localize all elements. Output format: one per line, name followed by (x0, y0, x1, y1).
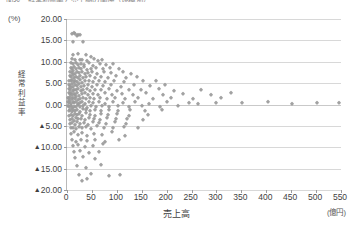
x-axis-tick-label: 50 (86, 192, 95, 202)
data-point (135, 95, 140, 100)
data-point (143, 91, 148, 96)
data-point (101, 70, 106, 75)
x-axis-tick-label: 200 (159, 192, 173, 202)
data-point (73, 156, 78, 161)
data-point (150, 97, 155, 102)
y-axis-tick-label: ▲5.00 (39, 121, 62, 131)
y-axis-tick-label: ▲10.00 (34, 142, 62, 152)
gridline-y (67, 147, 341, 148)
data-point (92, 157, 97, 162)
plot-area (66, 19, 341, 191)
data-point (71, 40, 76, 45)
data-point (78, 148, 83, 153)
x-axis-title: 売上高 (0, 207, 352, 220)
data-point (85, 176, 90, 181)
data-point (105, 75, 110, 80)
y-axis-tick (64, 126, 67, 127)
data-point (76, 133, 81, 138)
data-point (219, 95, 224, 100)
y-axis-tick-label: 15.00 (41, 35, 62, 45)
negative-triangle-icon: ▲ (34, 165, 41, 172)
data-point (76, 52, 81, 57)
data-point (115, 88, 120, 93)
data-point (120, 70, 125, 75)
data-point (229, 91, 234, 96)
x-axis-tick-label: 300 (208, 192, 222, 202)
gridline-y (67, 19, 341, 20)
data-point (98, 74, 103, 79)
data-point (103, 62, 108, 67)
x-axis-tick-label: 550 (333, 192, 347, 202)
y-axis-tick (64, 40, 67, 41)
data-point (78, 33, 83, 38)
data-point (98, 111, 103, 116)
data-point (180, 91, 185, 96)
data-point (147, 84, 152, 89)
data-point (79, 137, 84, 142)
data-point (130, 92, 135, 97)
data-point (190, 97, 195, 102)
data-point (108, 71, 113, 76)
data-point (98, 163, 103, 168)
chart-title-clipped: 図表 経常利益率と売上高の関係（規模別） (6, 0, 306, 2)
y-axis-tick-label: 0.00 (45, 100, 62, 110)
data-point (85, 134, 90, 139)
data-point (99, 132, 104, 137)
x-axis-tick-labels: 050100150200250300350400450500550 (0, 192, 352, 206)
data-point (126, 87, 131, 92)
data-point (91, 131, 96, 136)
data-point (209, 92, 214, 97)
data-point (159, 108, 164, 113)
data-point (122, 133, 127, 138)
negative-triangle-icon: ▲ (34, 143, 41, 150)
y-axis-tick-labels: 20.0015.0010.005.000.00▲5.00▲10.00▲15.00… (0, 19, 66, 190)
gridline-y (67, 40, 341, 41)
x-axis-tick-label: 100 (109, 192, 123, 202)
x-axis-tick-label: 0 (64, 192, 69, 202)
x-axis-tick-label: 500 (308, 192, 322, 202)
data-point (162, 82, 167, 87)
data-point (112, 120, 117, 125)
data-point (84, 53, 89, 58)
data-point (160, 93, 165, 98)
data-point (168, 96, 173, 101)
data-point (128, 71, 133, 76)
data-point (134, 74, 139, 79)
data-point (140, 117, 145, 122)
data-point (156, 87, 161, 92)
data-point (72, 150, 77, 155)
y-axis-tick (64, 169, 67, 170)
data-point (81, 154, 86, 159)
data-point (118, 84, 123, 89)
data-point (172, 88, 177, 93)
data-point (116, 138, 121, 143)
gridline-y (67, 169, 341, 170)
y-axis-tick (64, 19, 67, 20)
x-axis-tick-label: 250 (183, 192, 197, 202)
data-point (198, 87, 203, 92)
data-point (109, 130, 114, 135)
data-point (96, 150, 101, 155)
data-point (106, 173, 111, 178)
data-point (89, 171, 94, 176)
gridline-y (67, 126, 341, 127)
data-point (139, 104, 144, 109)
data-point (119, 91, 124, 96)
data-point (77, 173, 82, 178)
data-point (93, 107, 98, 112)
data-point (85, 139, 90, 144)
data-point (87, 151, 92, 156)
data-point (110, 61, 115, 66)
x-axis-tick-label: 400 (258, 192, 272, 202)
gridline-y (67, 190, 341, 191)
y-axis-tick-label: 10.00 (41, 57, 62, 67)
data-point (107, 66, 112, 71)
x-axis-unit-label: (億円) (327, 206, 346, 217)
data-point (90, 91, 95, 96)
data-point (93, 65, 98, 70)
y-axis-tick-label: 5.00 (45, 78, 62, 88)
x-axis-tick-label: 150 (134, 192, 148, 202)
data-point (70, 138, 75, 143)
data-point (106, 87, 111, 92)
data-point (138, 88, 143, 93)
